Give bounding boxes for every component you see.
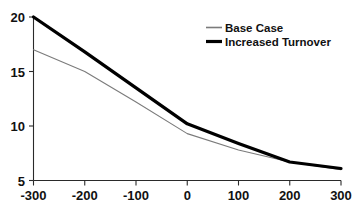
y-tick-label-10: 10 — [11, 119, 25, 134]
line-chart: 20 15 10 5 -300 -200 -100 0 100 200 300 … — [0, 0, 362, 217]
x-tick-label-300: 300 — [330, 188, 352, 203]
x-tick-label-200: 200 — [279, 188, 301, 203]
chart-container: 20 15 10 5 -300 -200 -100 0 100 200 300 … — [0, 0, 362, 217]
legend-label-base-case: Base Case — [225, 22, 283, 34]
legend-label-increased-turnover: Increased Turnover — [225, 36, 331, 48]
series-base-case — [34, 50, 342, 170]
x-tick-label-100: 100 — [228, 188, 250, 203]
x-tick-label-neg200: -200 — [72, 188, 98, 203]
y-tick-label-15: 15 — [11, 65, 25, 80]
y-tick-label-5: 5 — [18, 174, 25, 189]
x-tick-label-neg300: -300 — [20, 188, 46, 203]
y-tick-label-20: 20 — [11, 10, 25, 25]
x-tick-label-neg100: -100 — [123, 188, 149, 203]
x-tick-label-0: 0 — [184, 188, 191, 203]
chart-legend: Base Case Increased Turnover — [206, 22, 331, 48]
